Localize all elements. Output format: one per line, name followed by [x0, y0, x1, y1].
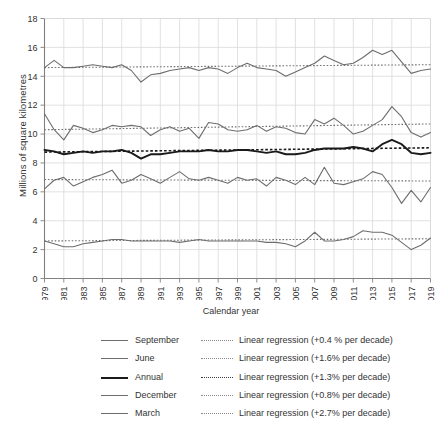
x-tick-label: 2011 — [349, 287, 359, 301]
x-tick-label: 1979 — [40, 287, 50, 301]
legend-series-label: September — [128, 335, 201, 345]
x-tick-label: 1995 — [194, 287, 204, 301]
x-tick-label: 2013 — [368, 287, 378, 301]
legend-regression-label: Linear regression (+2.7% per decade) — [235, 408, 390, 418]
legend-line-swatch — [101, 390, 128, 400]
y-tick-label: 6 — [32, 187, 37, 197]
legend-regression-swatch — [201, 353, 235, 363]
legend-regression-swatch — [201, 335, 235, 345]
legend-regression-swatch — [201, 372, 235, 382]
legend-regression-swatch — [201, 390, 235, 400]
x-tick-label: 1999 — [233, 287, 243, 301]
legend-series-label: December — [128, 390, 201, 400]
y-axis-title: Millions of square kilometres — [17, 26, 28, 246]
x-tick-label: 1997 — [214, 287, 224, 301]
x-tick-label: 2001 — [252, 287, 262, 301]
x-tick-label: 2017 — [407, 287, 417, 301]
y-tick-label: 18 — [27, 14, 37, 24]
legend-regression-label: Linear regression (+0.8% per decade) — [235, 390, 390, 400]
x-tick-label: 1993 — [175, 287, 185, 301]
y-tick-label: 4 — [32, 216, 37, 226]
x-tick-label: 1983 — [79, 287, 89, 301]
x-axis-title: Calendar year — [0, 306, 442, 316]
x-tick-label: 2007 — [310, 287, 320, 301]
legend-row: DecemberLinear regression (+0.8% per dec… — [101, 386, 442, 404]
x-tick-label: 1981 — [59, 287, 69, 301]
chart-legend: SeptemberLinear regression (+0.4 % per d… — [101, 331, 442, 422]
legend-row: AnnualLinear regression (+1.3% per decad… — [101, 368, 442, 386]
legend-row: JuneLinear regression (+1.6% per decade) — [101, 349, 442, 367]
legend-regression-label: Linear regression (+1.6% per decade) — [235, 353, 390, 363]
chart-figure: 0246810121416181979198119831985198719891… — [0, 0, 442, 429]
y-tick-label: 10 — [27, 129, 37, 139]
y-tick-label: 0 — [32, 274, 37, 284]
x-tick-label: 2015 — [387, 287, 397, 301]
legend-line-swatch — [101, 353, 128, 363]
legend-regression-swatch — [201, 408, 235, 418]
legend-line-swatch — [101, 335, 128, 345]
x-tick-label: 2005 — [291, 287, 301, 301]
tick-labels: 0246810121416181979198119831985198719891… — [27, 14, 435, 300]
chart-plot-area: 0246810121416181979198119831985198719891… — [0, 0, 442, 300]
y-tick-label: 2 — [32, 245, 37, 255]
y-tick-label: 14 — [27, 72, 37, 82]
legend-regression-label: Linear regression (+1.3% per decade) — [235, 372, 390, 382]
x-tick-label: 1991 — [156, 287, 166, 301]
x-tick-label: 2009 — [329, 287, 339, 301]
x-tick-label: 1987 — [117, 287, 127, 301]
x-tick-label: 1989 — [136, 287, 146, 301]
legend-row: SeptemberLinear regression (+0.4 % per d… — [101, 331, 442, 349]
legend-series-label: Annual — [128, 372, 201, 382]
legend-regression-label: Linear regression (+0.4 % per decade) — [235, 335, 393, 345]
x-tick-label: 2019 — [426, 287, 436, 301]
legend-series-label: June — [128, 353, 201, 363]
legend-series-label: March — [128, 408, 201, 418]
legend-line-swatch — [101, 408, 128, 418]
x-tick-label: 2003 — [272, 287, 282, 301]
y-tick-label: 16 — [27, 43, 37, 53]
legend-line-swatch — [101, 372, 128, 382]
y-tick-label: 8 — [32, 158, 37, 168]
legend-row: MarchLinear regression (+2.7% per decade… — [101, 404, 442, 422]
y-tick-label: 12 — [27, 100, 37, 110]
x-tick-label: 1985 — [98, 287, 108, 301]
